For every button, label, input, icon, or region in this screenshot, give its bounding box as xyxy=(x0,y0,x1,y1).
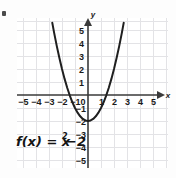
y-tick-label: 1 xyxy=(79,78,84,88)
x-tick-label: −5 xyxy=(18,97,28,107)
y-axis-label: y xyxy=(90,10,96,19)
y-tick-label: 3 xyxy=(79,52,84,62)
graph-figure: x y −5 −4 −3 −2 −1 0 1 2 3 4 5 5 4 3 2 1… xyxy=(0,0,176,178)
y-tick-label: 2 xyxy=(79,65,84,75)
x-tick-label: 5 xyxy=(151,97,156,107)
y-tick-label: 5 xyxy=(79,26,84,36)
x-tick-label: 4 xyxy=(138,97,143,107)
function-label-tail: −2 xyxy=(66,134,86,149)
x-axis-label: x xyxy=(165,91,171,100)
coordinate-plane: x y −5 −4 −3 −2 −1 0 1 2 3 4 5 5 4 3 2 1… xyxy=(0,0,176,178)
y-tick-label: −5 xyxy=(76,156,86,166)
y-tick-label: −2 xyxy=(76,117,86,127)
corner-artifact-mark xyxy=(2,11,6,16)
x-tick-label: −2 xyxy=(57,97,67,107)
x-tick-label: 3 xyxy=(125,97,130,107)
x-tick-label: −3 xyxy=(44,97,54,107)
x-tick-label: 2 xyxy=(112,97,117,107)
y-tick-label: 4 xyxy=(79,39,84,49)
function-label: f(x) = x 2 −2 xyxy=(16,132,86,149)
x-tick-label: −4 xyxy=(31,97,41,107)
